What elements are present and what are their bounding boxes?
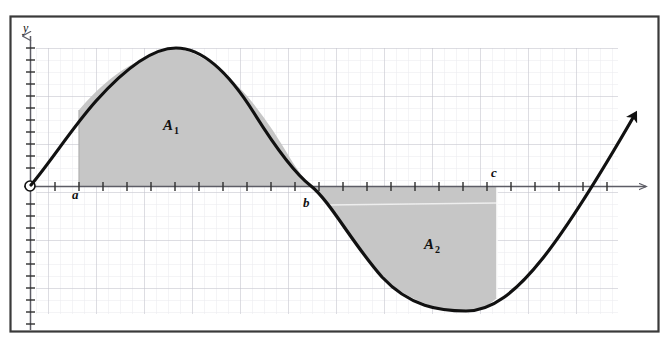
boundary-label-c: c xyxy=(491,165,497,180)
area-label-a1-subscript: 1 xyxy=(174,125,179,136)
y-axis-label: y xyxy=(22,21,29,35)
area-label-a1-letter: A xyxy=(162,117,173,133)
area-label-a2-subscript: 2 xyxy=(435,244,440,255)
math-figure-svg: y a b c A 1 A 2 xyxy=(0,0,669,343)
area-label-a2-letter: A xyxy=(423,236,434,252)
boundary-label-a: a xyxy=(72,187,79,202)
boundary-label-b: b xyxy=(303,195,310,210)
figure-root: y a b c A 1 A 2 xyxy=(0,0,669,343)
